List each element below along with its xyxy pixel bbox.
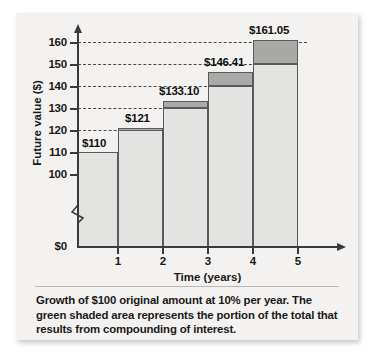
bar-year-4 — [208, 86, 253, 248]
y-tick-label-160: 160 — [7, 36, 67, 48]
x-tick-1 — [117, 247, 119, 254]
x-tick-label-3: 3 — [193, 255, 223, 267]
bar-compound-year-2 — [118, 128, 163, 131]
x-tick-label-1: 1 — [103, 255, 133, 267]
bar-value-label-year-3: $133.10 — [159, 85, 199, 97]
y-tick-110 — [70, 152, 78, 154]
bar-compound-year-3 — [163, 101, 208, 108]
bar-year-5 — [253, 64, 298, 248]
gridline-130 — [78, 108, 172, 109]
y-tick-130 — [70, 108, 78, 110]
y-tick-100 — [70, 174, 78, 176]
y-axis-arrow-icon — [74, 24, 82, 33]
axis-break-icon — [71, 199, 85, 227]
x-tick-5 — [297, 247, 299, 254]
figure-panel: $110 $121 $133.10 $146.41 $161.05 160 15… — [16, 13, 358, 340]
x-tick-4 — [252, 247, 254, 254]
x-axis-title: Time (years) — [77, 271, 338, 283]
y-tick-120 — [70, 130, 78, 132]
y-tick-150 — [70, 64, 78, 66]
caption-divider — [35, 286, 339, 287]
bar-value-label-year-1: $110 — [82, 137, 106, 149]
chart-plot-area: $110 $121 $133.10 $146.41 $161.05 160 15… — [16, 13, 358, 278]
bar-compound-year-5 — [253, 40, 298, 65]
bar-value-label-year-4: $146.41 — [204, 56, 244, 68]
y-tick-label-zero: $0 — [7, 240, 67, 252]
x-tick-3 — [207, 247, 209, 254]
x-axis-arrow-icon — [337, 243, 346, 251]
bar-value-label-year-2: $121 — [125, 112, 150, 124]
y-tick-160 — [70, 42, 78, 44]
bar-year-3 — [163, 108, 208, 248]
x-tick-label-2: 2 — [148, 255, 178, 267]
x-tick-label-5: 5 — [283, 255, 313, 267]
bar-compound-year-4 — [208, 72, 253, 87]
figure-caption: Growth of $100 original amount at 10% pe… — [36, 293, 344, 337]
x-tick-2 — [162, 247, 164, 254]
bar-value-label-year-5: $161.05 — [249, 24, 289, 36]
bar-year-2 — [118, 130, 163, 248]
x-tick-label-4: 4 — [238, 255, 268, 267]
y-axis-title: Future value ($) — [31, 58, 43, 188]
y-tick-140 — [70, 86, 78, 88]
